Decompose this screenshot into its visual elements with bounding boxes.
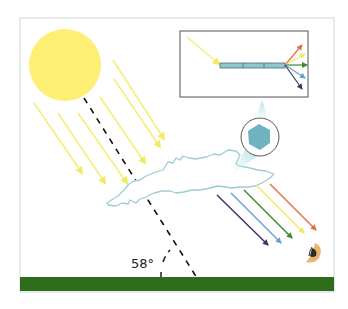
ground bbox=[20, 277, 334, 291]
inset-crystal-bar bbox=[220, 63, 285, 68]
angle-label: 58° bbox=[131, 256, 154, 271]
halo-diagram: 58° bbox=[0, 0, 348, 309]
sun-icon bbox=[29, 29, 101, 101]
